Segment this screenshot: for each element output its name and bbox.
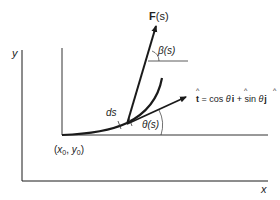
eq-theta-1: θ [226,94,231,104]
y-axis-label: y [11,47,19,59]
t-hat-caret: ^ [196,87,200,94]
svg-text:t = cos θi + sin θj: t = cos θi + sin θj [196,94,267,104]
tangent-equation: t = cos θi + sin θj ^ ^ ^ [196,87,277,104]
theta-arg: (s) [147,119,159,130]
beta-label: β(s) [157,45,175,56]
j-hat-symbol: j [263,94,267,104]
x-axis-label: x [260,183,267,195]
force-arg: (s) [156,10,169,22]
force-arrow [127,26,156,124]
theta-arc [159,110,163,135]
eq-theta-2: θ [258,94,263,104]
elastica-diagram: y x ds F(s) β(s) θ(s) t = cos θi + sin θ… [0,0,280,200]
ds-label: ds [106,107,117,118]
eq-cos: = cos [199,94,226,104]
force-label: F(s) [149,10,169,22]
j-hat-caret: ^ [273,87,277,94]
eq-sin: + sin [234,94,258,104]
origin-paren-close: ) [81,144,84,155]
beta-arg: (s) [164,45,176,56]
theta-label: θ(s) [142,119,159,130]
origin-label: (x0, y0) [54,144,84,156]
i-hat-caret: ^ [244,87,248,94]
